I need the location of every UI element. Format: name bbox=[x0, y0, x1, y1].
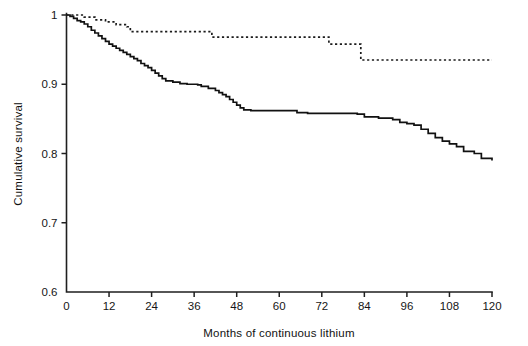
x-axis-title: Months of continuous lithium bbox=[203, 327, 354, 339]
survival-curve-dotted bbox=[67, 15, 493, 60]
data-curves bbox=[67, 15, 493, 160]
y-tick-label: 0.9 bbox=[42, 78, 58, 90]
x-tick-label: 48 bbox=[230, 300, 243, 312]
y-axis-tick-labels: 0.60.70.80.91 bbox=[42, 9, 58, 298]
x-tick-label: 72 bbox=[315, 300, 328, 312]
x-tick-label: 60 bbox=[273, 300, 286, 312]
x-tick-label: 96 bbox=[401, 300, 414, 312]
x-tick-label: 0 bbox=[63, 300, 69, 312]
x-tick-label: 120 bbox=[482, 300, 501, 312]
x-tick-label: 12 bbox=[103, 300, 116, 312]
axes-group: 0.60.70.80.91 01224364860728496108120 bbox=[42, 9, 502, 312]
survival-chart-figure: 0.60.70.80.91 01224364860728496108120 Mo… bbox=[0, 0, 528, 346]
x-tick-label: 84 bbox=[358, 300, 371, 312]
x-tick-label: 24 bbox=[145, 300, 158, 312]
x-axis-tick-labels: 01224364860728496108120 bbox=[63, 300, 501, 312]
x-tick-label: 36 bbox=[188, 300, 201, 312]
kaplan-meier-plot: 0.60.70.80.91 01224364860728496108120 Mo… bbox=[0, 0, 528, 346]
y-tick-label: 0.6 bbox=[42, 286, 58, 298]
survival-curve-solid bbox=[67, 15, 493, 160]
y-tick-label: 0.8 bbox=[42, 148, 58, 160]
x-tick-label: 108 bbox=[440, 300, 459, 312]
y-axis-title: Cumulative survival bbox=[12, 102, 24, 206]
y-tick-label: 0.7 bbox=[42, 217, 58, 229]
y-tick-label: 1 bbox=[51, 9, 57, 21]
